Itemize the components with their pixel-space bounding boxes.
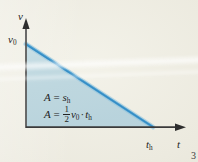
graph-canvas	[0, 0, 198, 162]
velocity-axis-label: v	[18, 11, 23, 22]
v-initial-tick-label: v0	[8, 34, 17, 45]
time-axis-arrowhead	[175, 123, 186, 131]
velocity-time-figure: v v0 th t A = sh A = 12v0·th 3	[0, 0, 198, 162]
equation-area-equals-sh: A = sh	[44, 91, 70, 103]
page-number: 3	[191, 150, 196, 161]
fraction-one-half: 12	[63, 105, 70, 124]
velocity-axis-arrowhead	[22, 18, 29, 29]
t-final-tick-label: th	[146, 139, 153, 150]
time-axis-label: t	[177, 139, 180, 150]
equation-area-half-v0-th: A = 12v0·th	[44, 105, 92, 124]
